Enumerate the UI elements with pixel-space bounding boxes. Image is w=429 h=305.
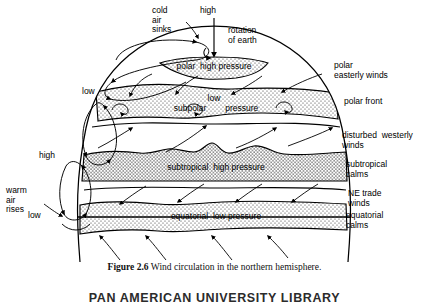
label-low-equatorial: low xyxy=(28,211,41,221)
figure-caption: Figure 2.6 Wind circulation in the north… xyxy=(0,262,429,272)
label-high-polar: high xyxy=(200,6,216,16)
band-label-equatorial-low-pressure: equatorial low pressure xyxy=(116,212,316,222)
label-low-polar: low xyxy=(82,87,95,97)
band-label-subpolar-low-pressure: subpolar pressure xyxy=(126,104,306,114)
equatorial-inflow-arrows xyxy=(100,236,288,260)
library-stamp: PAN AMERICAN UNIVERSITY LIBRARY xyxy=(0,291,429,305)
label-disturbed-westerly-winds: disturbed westerly winds xyxy=(342,131,413,150)
label-polar-front: polar front xyxy=(344,97,382,107)
label-high-subtropical: high xyxy=(39,151,55,161)
label-rotation-of-earth: rotation of earth xyxy=(228,26,257,45)
figure-caption-text: Wind circulation in the northern hemisph… xyxy=(151,262,322,272)
band-label-polar-high-pressure: polar high pressure xyxy=(154,62,274,72)
band-label-subtropical-high-pressure: subtropical high pressure xyxy=(116,163,316,173)
figure-number: Figure 2.6 xyxy=(108,262,149,272)
label-subtropical-calms: subtropical calms xyxy=(346,160,387,179)
label-polar-easterly-winds: polar easterly winds xyxy=(334,61,388,80)
label-equatorial-calms: equatorial calms xyxy=(346,211,383,230)
label-cold-air-sinks: cold air sinks xyxy=(152,6,171,35)
pressure-bands xyxy=(60,57,366,234)
label-ne-trade-winds: NE trade winds xyxy=(348,189,382,208)
wind-circulation-diagram xyxy=(0,0,429,305)
label-warm-air-rises: warm air rises xyxy=(6,186,27,215)
